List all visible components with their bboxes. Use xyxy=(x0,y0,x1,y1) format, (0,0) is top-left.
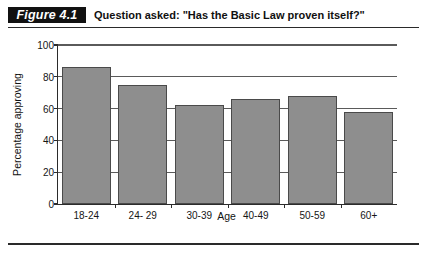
x-tick-5 xyxy=(341,204,342,208)
x-tick-1 xyxy=(115,204,116,208)
bar-40-49 xyxy=(231,99,280,204)
bar-60+ xyxy=(344,112,393,204)
y-tick-label-80: 80 xyxy=(43,71,54,82)
bar-24- 29 xyxy=(118,85,167,204)
bar-series xyxy=(58,45,397,204)
x-tick-4 xyxy=(284,204,285,208)
bar-30-39 xyxy=(175,105,224,204)
footer-divider xyxy=(8,243,419,245)
y-tick-label-0: 0 xyxy=(48,199,54,210)
figure-caption: Question asked: "Has the Basic Law prove… xyxy=(94,7,365,23)
figure-number-badge: Figure 4.1 xyxy=(8,7,86,23)
x-axis-title: Age xyxy=(57,210,396,222)
figure-header: Figure 4.1 Question asked: "Has the Basi… xyxy=(0,0,427,29)
x-tick-3 xyxy=(228,204,229,208)
y-tick-label-40: 40 xyxy=(43,135,54,146)
plot-area: 020406080100 18-2424- 2930-3940-4950-596… xyxy=(57,45,397,205)
x-tick-2 xyxy=(171,204,172,208)
y-axis-title: Percentage approving xyxy=(11,45,25,204)
y-tick-label-60: 60 xyxy=(43,103,54,114)
y-tick-label-20: 20 xyxy=(43,167,54,178)
y-tick-label-100: 100 xyxy=(37,40,54,51)
bar-18-24 xyxy=(62,67,111,204)
bar-chart: Percentage approving 020406080100 18-242… xyxy=(0,29,427,224)
bar-50-59 xyxy=(288,96,337,204)
